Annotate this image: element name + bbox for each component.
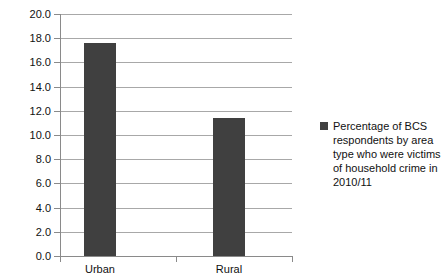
x-tick-mark xyxy=(60,256,61,262)
x-tick-mark xyxy=(176,256,177,262)
gridline xyxy=(60,14,292,15)
x-tick-mark xyxy=(292,256,293,262)
x-axis-line xyxy=(54,256,292,257)
y-axis-tick-label: 6.0 xyxy=(36,178,51,189)
y-axis-tick-label: 10.0 xyxy=(30,130,51,141)
y-axis-tick-label: 2.0 xyxy=(36,226,51,237)
bar-urban[interactable] xyxy=(84,43,116,256)
y-axis-tick-label: 12.0 xyxy=(30,105,51,116)
bar-chart-figure: 20.0 18.0 16.0 14.0 12.0 10.0 xyxy=(0,0,448,280)
y-axis-tick-label: 8.0 xyxy=(36,154,51,165)
chart-legend: Percentage of BCS respondents by area ty… xyxy=(320,119,444,189)
bar-rural[interactable] xyxy=(213,118,245,256)
y-axis-tick-label: 18.0 xyxy=(30,33,51,44)
y-axis-tick-label: 20.0 xyxy=(30,9,51,20)
plot-area: 20.0 18.0 16.0 14.0 12.0 10.0 xyxy=(60,14,292,256)
y-axis-tick-label: 14.0 xyxy=(30,81,51,92)
x-axis-label-rural: Rural xyxy=(216,263,242,276)
y-axis-tick-label: 4.0 xyxy=(36,202,51,213)
gridline xyxy=(60,38,292,39)
legend-swatch-icon xyxy=(320,122,328,130)
y-axis-tick-label: 16.0 xyxy=(30,57,51,68)
legend-label: Percentage of BCS respondents by area ty… xyxy=(333,119,444,189)
y-axis-line xyxy=(60,14,61,257)
x-axis-label-urban: Urban xyxy=(85,263,115,276)
y-axis-tick-label: 0.0 xyxy=(36,251,51,262)
